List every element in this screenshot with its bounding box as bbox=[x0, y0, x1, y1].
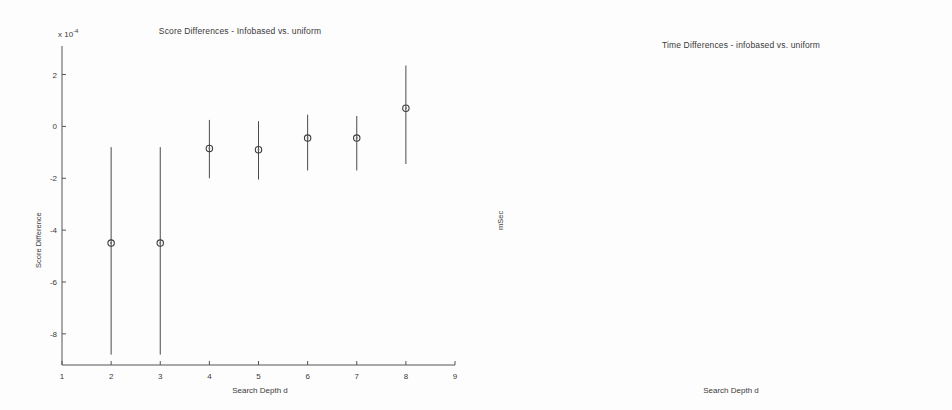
data-point-group bbox=[206, 120, 212, 178]
chart-panel-score-differences: Score Differences - Infobased vs. unifor… bbox=[0, 0, 476, 410]
x-tick-label: 2 bbox=[109, 372, 114, 381]
data-point-group bbox=[304, 115, 310, 171]
chart-panel-time-differences: Time Differences - infobased vs. uniform… bbox=[476, 0, 952, 410]
y-tick-label: 0 bbox=[53, 122, 58, 131]
y-tick-label: -4 bbox=[50, 226, 58, 235]
data-marker-center bbox=[159, 242, 161, 244]
y-tick-label: -8 bbox=[50, 330, 58, 339]
data-marker-center bbox=[258, 149, 260, 151]
plot-area-score-differences: 12345678920-2-4-6-8 bbox=[0, 0, 476, 410]
y-tick-label: -6 bbox=[50, 278, 58, 287]
plot-area-time-differences: 1234567890-2000-4000-6000-8000-10000-120… bbox=[476, 0, 952, 410]
data-marker-center bbox=[307, 137, 309, 139]
x-tick-label: 9 bbox=[453, 372, 458, 381]
x-tick-label: 5 bbox=[256, 372, 261, 381]
data-marker-center bbox=[208, 147, 210, 149]
y-tick-label: 2 bbox=[53, 71, 58, 80]
data-marker-center bbox=[356, 137, 358, 139]
x-tick-label: 7 bbox=[355, 372, 360, 381]
data-point-group bbox=[255, 121, 261, 179]
x-tick-label: 8 bbox=[404, 372, 409, 381]
x-tick-label: 6 bbox=[305, 372, 310, 381]
y-tick-label: -2 bbox=[50, 174, 58, 183]
axis-frame bbox=[62, 46, 455, 365]
data-point-group bbox=[354, 116, 360, 170]
data-point-group bbox=[108, 147, 114, 354]
data-marker-center bbox=[405, 107, 407, 109]
data-point-group bbox=[403, 65, 409, 164]
data-marker-center bbox=[110, 242, 112, 244]
figure-container: Score Differences - Infobased vs. unifor… bbox=[0, 0, 952, 410]
x-tick-label: 3 bbox=[158, 372, 163, 381]
data-point-group bbox=[157, 147, 163, 354]
x-tick-label: 1 bbox=[60, 372, 65, 381]
x-tick-label: 4 bbox=[207, 372, 212, 381]
